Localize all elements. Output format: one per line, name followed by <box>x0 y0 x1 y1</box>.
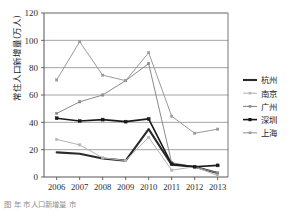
legend-marker-1 <box>249 92 252 95</box>
gridlines-group <box>44 13 228 150</box>
data-point <box>78 119 81 122</box>
y-tick-label: 80 <box>29 63 39 73</box>
data-point <box>170 115 172 117</box>
data-series-group <box>55 41 219 177</box>
data-point <box>170 163 173 166</box>
y-tick-label: 120 <box>25 8 39 18</box>
x-tick-label: 2013 <box>209 182 226 192</box>
y-tick-label: 40 <box>29 118 39 128</box>
y-tick-label: 0 <box>34 172 39 182</box>
line-chart: 020406080100120 200620072008200920102011… <box>0 0 298 212</box>
data-point <box>78 101 80 103</box>
legend-marker-3 <box>248 118 251 121</box>
data-point <box>55 138 57 140</box>
legend-label-广州[interactable]: 广州 <box>261 102 277 112</box>
data-point <box>55 117 58 120</box>
series-line-3 <box>57 118 218 167</box>
data-point <box>101 157 103 159</box>
data-point <box>147 117 150 120</box>
x-tick-label: 2012 <box>186 182 203 192</box>
data-point <box>124 159 126 161</box>
data-point <box>101 118 104 121</box>
x-tick-labels: 20062007200820092010201120122013 <box>48 177 226 192</box>
data-point <box>147 51 149 53</box>
data-point <box>193 165 196 168</box>
data-point <box>101 94 103 96</box>
data-point <box>147 136 149 138</box>
data-point <box>78 41 80 43</box>
data-point <box>55 112 57 114</box>
y-tick-labels: 020406080100120 <box>25 8 45 182</box>
data-point <box>124 79 126 81</box>
x-tick-label: 2008 <box>94 182 111 192</box>
y-tick-label: 60 <box>29 90 39 100</box>
x-tick-label: 2006 <box>48 182 66 192</box>
data-point <box>216 128 218 130</box>
chart-legend: 杭州南京广州深圳上海 <box>243 75 278 138</box>
legend-marker-2 <box>249 105 252 108</box>
x-tick-label: 2007 <box>71 182 89 192</box>
x-tick-label: 2011 <box>163 182 180 192</box>
data-point <box>101 74 103 76</box>
y-tick-label: 100 <box>25 36 39 46</box>
data-point <box>216 174 218 176</box>
legend-label-南京[interactable]: 南京 <box>261 89 277 99</box>
figure-caption: 图 年 市人口新增量 市 <box>4 198 296 209</box>
y-tick-label: 20 <box>29 145 39 155</box>
x-tick-label: 2009 <box>117 182 134 192</box>
legend-label-上海[interactable]: 上海 <box>261 128 278 138</box>
data-point <box>216 172 218 174</box>
data-point <box>170 169 172 171</box>
data-point <box>216 164 219 167</box>
data-point <box>124 120 127 123</box>
data-point <box>147 62 149 64</box>
data-point <box>193 132 195 134</box>
data-point <box>55 79 57 81</box>
figure-container: 常住人口新增量(万人) 020406080100120 200620072008… <box>0 0 298 212</box>
legend-marker-4 <box>249 132 252 135</box>
legend-label-杭州[interactable]: 杭州 <box>261 75 277 85</box>
data-point <box>78 144 80 146</box>
series-line-2 <box>57 64 218 173</box>
legend-label-深圳[interactable]: 深圳 <box>261 115 277 125</box>
x-tick-label: 2010 <box>140 182 157 192</box>
